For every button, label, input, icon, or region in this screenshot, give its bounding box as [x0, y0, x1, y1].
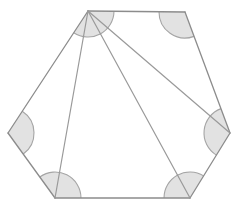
hexagon-edge-fa	[8, 11, 88, 133]
angle-arc-fill-c	[204, 109, 230, 156]
hexagon-edge-bc	[185, 12, 230, 133]
diagonal-ad	[88, 11, 190, 198]
hexagon-diagram	[0, 0, 242, 214]
angle-arc-fill-b	[159, 12, 194, 38]
geometry-figure-canvas	[0, 0, 242, 214]
diagonal-ae	[55, 11, 88, 198]
diagonal-layer	[55, 11, 230, 198]
diagonal-ac	[88, 11, 230, 133]
